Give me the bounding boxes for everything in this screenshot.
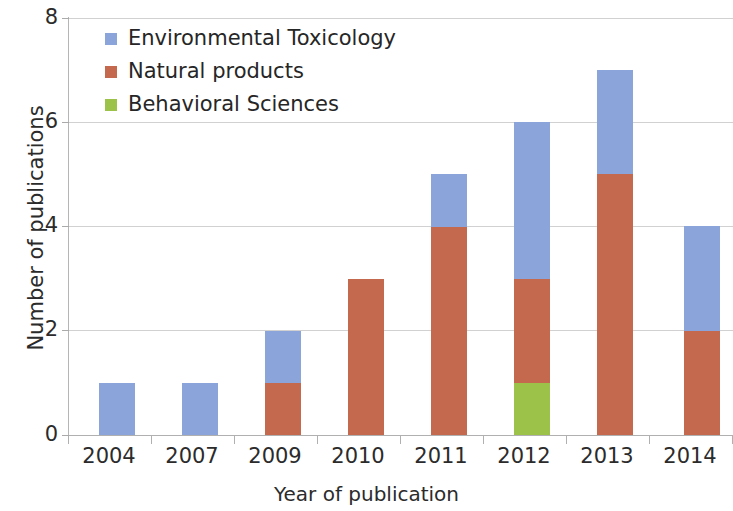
y-tickmark-4 — [62, 226, 69, 227]
bar-segment-natural-products-2012 — [514, 279, 550, 383]
x-tick-label-2013: 2013 — [562, 443, 652, 469]
bar-segment-behavioral-sciences-2012 — [514, 383, 550, 435]
y-tickmark-6 — [62, 122, 69, 123]
bar-group-2012 — [514, 18, 550, 435]
x-tick-label-2009: 2009 — [230, 443, 320, 469]
legend-item-behavioral-sciences: Behavioral Sciences — [105, 88, 396, 121]
x-tick-label-2007: 2007 — [147, 443, 237, 469]
legend-item-natural-products: Natural products — [105, 55, 396, 88]
bar-segment-natural-products-2011 — [431, 227, 467, 436]
legend-label-natural-products: Natural products — [128, 61, 304, 82]
bar-segment-environmental-toxicology-2004 — [99, 383, 135, 435]
bar-group-2013 — [597, 18, 633, 435]
legend-swatch-icon-behavioral-sciences — [105, 99, 117, 111]
bar-segment-environmental-toxicology-2012 — [514, 122, 550, 278]
legend-swatch-icon-environmental-toxicology — [105, 33, 117, 45]
chart-legend: Environmental Toxicology Natural product… — [105, 22, 396, 121]
x-axis-title: Year of publication — [0, 482, 733, 506]
legend-label-behavioral-sciences: Behavioral Sciences — [128, 94, 339, 115]
y-tick-label-8: 8 — [0, 7, 58, 28]
bar-segment-environmental-toxicology-2013 — [597, 70, 633, 174]
x-tick-label-2014: 2014 — [645, 443, 733, 469]
x-tick-label-2010: 2010 — [313, 443, 403, 469]
x-tick-label-2011: 2011 — [396, 443, 486, 469]
bar-segment-natural-products-2009 — [265, 383, 301, 435]
legend-swatch-icon-natural-products — [105, 66, 117, 78]
x-axis-tick-labels: 2004 2007 2009 2010 2011 2012 2013 2014 — [0, 443, 733, 477]
bar-segment-natural-products-2010 — [348, 279, 384, 435]
bar-segment-environmental-toxicology-2009 — [265, 331, 301, 383]
x-tick-label-2004: 2004 — [64, 443, 154, 469]
bar-segment-natural-products-2014 — [684, 331, 720, 435]
y-tickmark-2 — [62, 330, 69, 331]
y-axis-title: Number of publications — [24, 88, 48, 368]
bar-segment-environmental-toxicology-2011 — [431, 174, 467, 226]
x-tick-label-2012: 2012 — [479, 443, 569, 469]
y-tickmark-8 — [62, 18, 69, 19]
bar-segment-natural-products-2013 — [597, 174, 633, 435]
bar-group-2011 — [431, 18, 467, 435]
bar-segment-environmental-toxicology-2014 — [684, 226, 720, 330]
y-tick-label-0: 0 — [0, 424, 58, 445]
legend-label-environmental-toxicology: Environmental Toxicology — [128, 28, 396, 49]
bar-group-2014 — [684, 18, 720, 435]
bar-segment-environmental-toxicology-2007 — [182, 383, 218, 435]
legend-item-environmental-toxicology: Environmental Toxicology — [105, 22, 396, 55]
publications-by-year-stacked-bar-chart: 8 6 4 2 0 Number of publications 2004 20… — [0, 0, 733, 511]
